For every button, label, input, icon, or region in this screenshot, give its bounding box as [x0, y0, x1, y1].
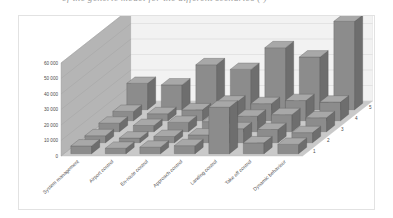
category-axis-label-1: Airport control: [88, 158, 115, 184]
category-axis-label-4: Landing control: [189, 158, 218, 186]
y-axis-tick-label-6: 60 000: [44, 61, 58, 66]
bar-4-0: [209, 101, 238, 154]
bar-front-face: [209, 107, 230, 154]
category-axis-label-2: En-route control: [119, 158, 149, 187]
chart-canvas: 010 00020 00030 00040 00050 00060 000123…: [19, 16, 374, 209]
bar-front-face: [133, 125, 154, 131]
bar-front-face: [105, 148, 126, 153]
y-axis-tick-label-1: 10 000: [44, 138, 58, 143]
depth-axis-tick-label-2: 3: [341, 127, 344, 132]
category-axis-label-0: System management: [41, 158, 80, 195]
category-axis-label-5: Take off control: [224, 158, 253, 185]
bar-front-face: [278, 144, 299, 153]
bar-front-face: [243, 143, 264, 154]
category-axis-label-3: Approach control: [152, 158, 184, 188]
depth-axis-tick-label-3: 4: [355, 116, 358, 121]
depth-axis-tick-label-4: 5: [369, 105, 372, 110]
y-axis-tick-label-2: 20 000: [44, 123, 58, 128]
cut-off-document-line: of the generic model for the different s…: [62, 0, 267, 3]
bar-0-4: [127, 77, 156, 110]
bar-front-face: [174, 146, 195, 154]
chart-root: 010 00020 00030 00040 00050 00060 000123…: [41, 16, 374, 195]
y-axis-tick-label-3: 30 000: [44, 107, 58, 112]
depth-axis-tick-label-1: 2: [327, 138, 330, 143]
y-axis-tick-label-4: 40 000: [44, 92, 58, 97]
bar-front-face: [71, 146, 92, 154]
depth-axis-tick-label-0: 1: [313, 149, 316, 154]
document-text-strip: of the generic model for the different s…: [0, 0, 393, 14]
bar-front-face: [140, 147, 161, 154]
bar-front-face: [161, 85, 182, 110]
y-axis-tick-label-0: 0: [55, 154, 58, 159]
bar-1-4: [161, 79, 190, 110]
y-axis-tick-label-5: 50 000: [44, 76, 58, 81]
figure-frame: 010 00020 00030 00040 00050 00060 000123…: [18, 15, 375, 210]
category-axis-label-6: Dynamic behaviour: [252, 158, 288, 192]
bar-front-face: [196, 65, 217, 110]
bar-side-face: [355, 16, 363, 110]
bar-side-face: [230, 101, 238, 154]
